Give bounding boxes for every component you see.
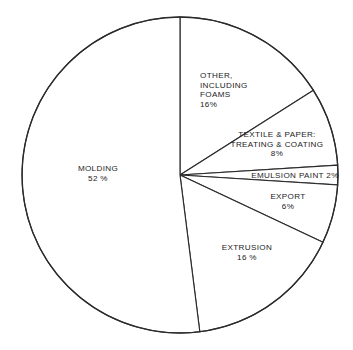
slice-label-molding-value: 52 % [56, 174, 140, 184]
slice-label-other-value: 16% [200, 100, 286, 110]
pie-chart: MOLDING 52 % OTHER, INCLUDING FOAMS 16% … [0, 0, 353, 350]
slice-label-extrusion-value: 16 % [203, 253, 291, 263]
slice-label-other-including-foams: OTHER, INCLUDING FOAMS 16% [200, 71, 286, 109]
slice-label-other-line1: OTHER, [200, 71, 286, 81]
slice-label-textile-value: 8% [215, 149, 339, 159]
slice-label-other-line3: FOAMS [200, 90, 286, 100]
slice-label-molding: MOLDING 52 % [56, 164, 140, 183]
slice-label-export: EXPORT 6% [253, 192, 323, 211]
slice-label-molding-name: MOLDING [56, 164, 140, 174]
slice-label-extrusion: EXTRUSION 16 % [203, 243, 291, 262]
slice-label-extrusion-name: EXTRUSION [203, 243, 291, 253]
slice-label-emulsion-paint: EMULSION PAINT 2% [242, 171, 348, 181]
slice-label-emulsion-text: EMULSION PAINT 2% [242, 171, 348, 181]
slice-label-textile-line2: TREATING & COATING [215, 140, 339, 150]
slice-label-textile-and-paper: TEXTILE & PAPER: TREATING & COATING 8% [215, 130, 339, 159]
slice-label-textile-line1: TEXTILE & PAPER: [215, 130, 339, 140]
slice-label-export-name: EXPORT [253, 192, 323, 202]
slice-label-other-line2: INCLUDING [200, 81, 286, 91]
slice-label-export-value: 6% [253, 202, 323, 212]
